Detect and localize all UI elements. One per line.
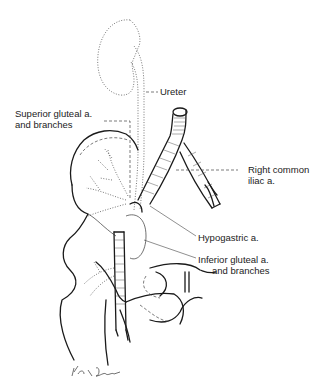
kidney-outline [98, 20, 140, 95]
ureter [134, 46, 144, 210]
superior-gluteal-branches [86, 148, 128, 216]
label-right-common-iliac-line1: Right common [248, 164, 309, 175]
femur-shaft [105, 300, 108, 365]
label-superior-gluteal-line1: Superior gluteal a. [15, 108, 92, 119]
ilium-crest [80, 138, 128, 155]
hypogastric-artery [114, 232, 130, 342]
anatomy-drawing [0, 0, 326, 389]
label-superior-gluteal-line2: and branches [15, 119, 73, 130]
label-inferior-gluteal-line1: Inferior gluteal a. [198, 254, 269, 265]
ilium-outline [71, 131, 139, 185]
ilium-outer [60, 185, 88, 360]
pubis-outline [150, 264, 216, 273]
superior-gluteal-leader [104, 121, 130, 200]
label-ureter: Ureter [160, 86, 186, 97]
hypogastric-leader [150, 206, 196, 236]
artist-signature [72, 366, 120, 376]
ureter-inner [131, 62, 138, 210]
label-inferior-gluteal-line2: and branches [212, 265, 270, 276]
label-right-common-iliac-line2: iliac a. [248, 175, 275, 186]
common-iliac-artery [138, 108, 220, 208]
label-hypogastric: Hypogastric a. [198, 232, 259, 243]
inferior-gluteal-leader [144, 240, 196, 258]
bladder-outline [126, 215, 146, 259]
